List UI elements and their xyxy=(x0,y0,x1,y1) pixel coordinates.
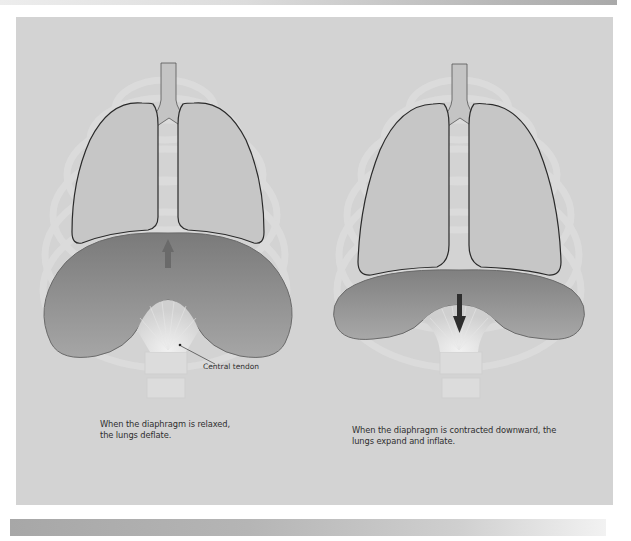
contracted-illustration xyxy=(334,64,585,398)
right-lung-relaxed xyxy=(178,103,264,243)
caption-contracted-line-2: lungs expand and inflate. xyxy=(352,436,556,447)
central-tendon-label: Central tendon xyxy=(203,362,259,371)
spine-ghost-left xyxy=(145,352,187,398)
left-lung-contracted xyxy=(358,104,449,276)
caption-relaxed: When the diaphragm is relaxed, the lungs… xyxy=(100,419,230,441)
callout-pointer-dot xyxy=(179,344,182,347)
right-lung-contracted xyxy=(469,104,561,276)
caption-relaxed-line-1: When the diaphragm is relaxed, xyxy=(100,419,230,430)
breathing-diagram xyxy=(0,0,631,541)
left-lung-relaxed xyxy=(72,103,158,243)
caption-relaxed-line-2: the lungs deflate. xyxy=(100,430,230,441)
spine-ghost-right xyxy=(440,352,482,398)
caption-contracted: When the diaphragm is contracted downwar… xyxy=(352,425,556,447)
relaxed-illustration xyxy=(43,63,292,398)
caption-contracted-line-1: When the diaphragm is contracted downwar… xyxy=(352,425,556,436)
